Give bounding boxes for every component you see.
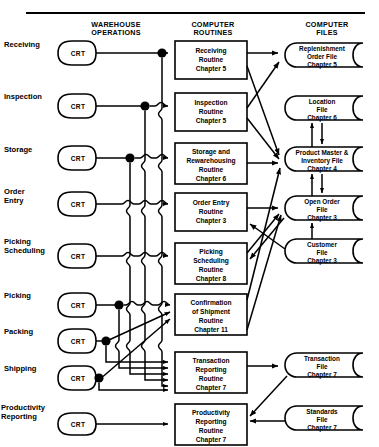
- junction-inspection: [140, 101, 149, 110]
- routine-order-entry[interactable]: Order Entry Routine Chapter 3: [175, 193, 247, 231]
- file-transaction-line3: Chapter 7: [307, 371, 337, 379]
- routine-inspection[interactable]: Inspection Routine Chapter 5: [175, 93, 247, 131]
- crt-label-inspection: CRT: [71, 103, 85, 110]
- crt-picking[interactable]: CRT: [58, 293, 96, 317]
- column-header-warehouse: WAREHOUSE OPERATIONS: [91, 20, 141, 37]
- routine-storage-line4: Chapter 6: [196, 175, 227, 183]
- row-label-shipping: Shipping: [4, 364, 37, 373]
- routine-confirmation[interactable]: Confirmation of Shipment Routine Chapter…: [175, 294, 247, 335]
- routine-receiving-line1: Receiving: [195, 47, 226, 55]
- routine-productivity-line4: Chapter 7: [196, 436, 227, 444]
- flow-diagram-svg: WAREHOUSE OPERATIONS COMPUTER ROUTINES C…: [0, 0, 379, 447]
- crt-label-receiving: CRT: [71, 50, 85, 57]
- column-header-routines: COMPUTER ROUTINES: [191, 20, 235, 37]
- file-customer-line2: File: [316, 249, 327, 256]
- diagram-page: WAREHOUSE OPERATIONS COMPUTER ROUTINES C…: [0, 0, 379, 447]
- file-standards-line1: Standards: [306, 408, 338, 415]
- routine-storage-line2: Rewarehousing: [186, 157, 235, 165]
- file-open-order[interactable]: Open Order File Chapter 3: [285, 196, 363, 222]
- junction-shipping: [94, 373, 103, 382]
- file-standards-line2: File: [316, 416, 327, 423]
- crt-productivity[interactable]: CRT: [58, 413, 96, 435]
- routine-picking-sched-line1: Picking: [199, 248, 222, 256]
- column-header-files: COMPUTER FILES: [305, 20, 349, 37]
- file-open-order-line2: File: [316, 206, 327, 213]
- file-open-order-line3: Chapter 3: [307, 214, 337, 222]
- file-customer-line3: Chapter 3: [307, 257, 337, 265]
- crt-order-entry[interactable]: CRT: [58, 192, 96, 216]
- crt-inspection[interactable]: CRT: [58, 94, 96, 118]
- routine-confirmation-line4: Chapter 11: [194, 326, 228, 334]
- crt-label-order-entry: CRT: [71, 201, 85, 208]
- routine-picking-scheduling[interactable]: Picking Scheduling Routine Chapter 8: [175, 243, 247, 284]
- row-label-productivity-2: Reporting: [1, 412, 37, 421]
- file-replenishment-order[interactable]: Replenishment Order File Chapter 5: [285, 43, 363, 69]
- row-label-storage: Storage: [4, 145, 32, 154]
- file-open-order-line1: Open Order: [304, 198, 340, 206]
- routine-transaction-line3: Routine: [199, 375, 224, 382]
- routine-inspection-line3: Chapter 5: [196, 117, 227, 125]
- crt-label-packing: CRT: [71, 338, 85, 345]
- crt-shipping[interactable]: CRT: [58, 366, 96, 390]
- crt-picking-scheduling[interactable]: CRT: [58, 244, 96, 268]
- routine-storage[interactable]: Storage and Rewarehousing Routine Chapte…: [175, 143, 247, 184]
- file-standards[interactable]: Standards File Chapter 7: [285, 406, 363, 432]
- row-label-order-entry-2: Entry: [4, 196, 24, 205]
- file-transaction-line1: Transaction: [304, 355, 340, 362]
- file-location[interactable]: Location File Chapter 6: [285, 96, 363, 122]
- crt-label-picking-scheduling: CRT: [71, 253, 85, 260]
- file-location-line2: File: [316, 106, 327, 113]
- file-customer-line1: Customer: [307, 241, 337, 248]
- crt-receiving[interactable]: CRT: [58, 41, 96, 65]
- crt-storage[interactable]: CRT: [58, 146, 96, 170]
- row-label-inspection: Inspection: [4, 92, 42, 101]
- file-location-line3: Chapter 6: [307, 114, 337, 122]
- row-label-picking: Picking: [4, 291, 31, 300]
- routine-transaction-line2: Reporting: [195, 366, 226, 374]
- file-customer[interactable]: Customer File Chapter 3: [285, 239, 363, 265]
- file-product-master[interactable]: Product Master & Inventory File Chapter …: [285, 147, 363, 173]
- routine-receiving[interactable]: Receiving Routine Chapter 5: [175, 41, 247, 79]
- routine-picking-sched-line3: Routine: [199, 266, 224, 273]
- file-replenishment-line3: Chapter 5: [307, 61, 337, 69]
- header-files-line2: FILES: [316, 28, 338, 37]
- file-product-master-line1: Product Master &: [296, 149, 349, 156]
- routine-receiving-line3: Chapter 5: [196, 65, 227, 73]
- file-standards-line3: Chapter 7: [307, 424, 337, 432]
- routine-storage-line1: Storage and: [192, 148, 230, 156]
- routine-productivity[interactable]: Productivity Reporting Routine Chapter 7: [175, 404, 247, 445]
- crt-packing[interactable]: CRT: [58, 329, 96, 353]
- routine-productivity-line2: Reporting: [195, 418, 226, 426]
- row-label-receiving: Receiving: [4, 40, 40, 49]
- routine-storage-line3: Routine: [199, 166, 224, 173]
- routine-confirmation-line2: of Shipment: [192, 308, 231, 316]
- file-transaction[interactable]: Transaction File Chapter 7: [285, 353, 363, 379]
- row-label-packing: Packing: [4, 327, 33, 336]
- file-replenishment-line2: Order File: [307, 53, 338, 60]
- row-label-order-entry-1: Order: [4, 187, 25, 196]
- routine-confirmation-line1: Confirmation: [190, 299, 231, 306]
- file-product-master-line2: Inventory File: [301, 157, 343, 165]
- routine-transaction-line4: Chapter 7: [196, 384, 227, 392]
- routine-picking-sched-line4: Chapter 8: [196, 275, 227, 283]
- row-label-picking-sched-2: Scheduling: [4, 246, 45, 255]
- routine-order-entry-line3: Chapter 3: [196, 217, 227, 225]
- routine-confirmation-line3: Routine: [199, 317, 224, 324]
- routine-productivity-line1: Productivity: [192, 409, 230, 417]
- routine-inspection-line2: Routine: [199, 108, 224, 115]
- routine-order-entry-line2: Routine: [199, 208, 224, 215]
- routine-transaction[interactable]: Transaction Reporting Routine Chapter 7: [175, 352, 247, 393]
- routine-productivity-line3: Routine: [199, 427, 224, 434]
- routine-order-entry-line1: Order Entry: [193, 199, 230, 207]
- routine-transaction-line1: Transaction: [192, 357, 229, 364]
- crt-label-storage: CRT: [71, 155, 85, 162]
- file-transaction-line2: File: [316, 363, 327, 370]
- junction-receiving: [157, 48, 166, 57]
- junction-packing: [101, 336, 110, 345]
- file-location-line1: Location: [309, 98, 336, 105]
- wiring-warehouse-to-routines: [94, 48, 170, 424]
- header-routines-line2: ROUTINES: [193, 28, 232, 37]
- crt-label-productivity: CRT: [71, 421, 85, 428]
- crt-label-shipping: CRT: [71, 375, 85, 382]
- header-warehouse-line2: OPERATIONS: [91, 28, 141, 37]
